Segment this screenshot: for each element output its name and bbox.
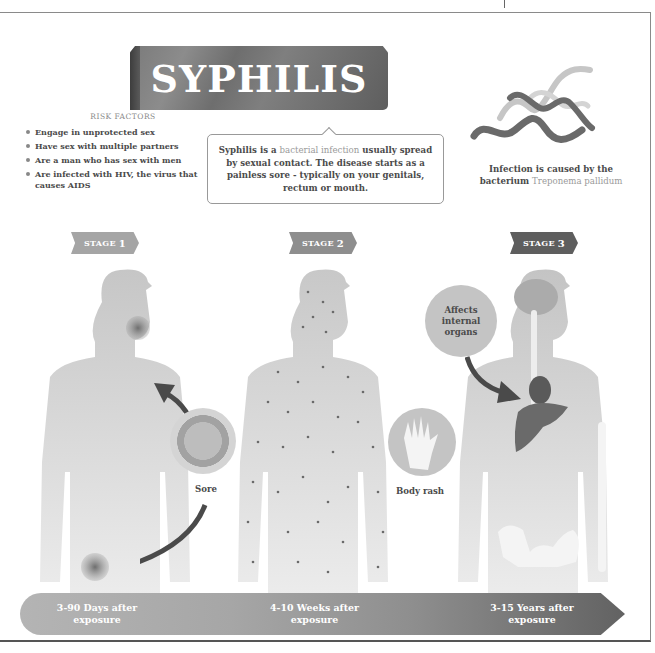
sore-label: Sore bbox=[186, 484, 226, 495]
mouth-lesion bbox=[126, 316, 150, 340]
arm-bone-icon bbox=[598, 422, 606, 572]
genital-lesion bbox=[81, 553, 109, 581]
title-banner: SYPHILIS bbox=[130, 46, 388, 110]
bullet-icon bbox=[26, 144, 30, 148]
top-tick-mark bbox=[504, 0, 505, 8]
stage-1-arrows bbox=[140, 375, 220, 585]
banner-fold bbox=[130, 46, 140, 110]
stage-3-tag: STAGE3 bbox=[510, 232, 578, 254]
hand-icon bbox=[388, 408, 456, 476]
risk-factors: RISK FACTORS Engage in unprotected sex H… bbox=[26, 112, 206, 194]
treponema-bacteria-icon bbox=[470, 58, 600, 148]
risk-factor-item: Engage in unprotected sex bbox=[26, 127, 206, 138]
bullet-icon bbox=[26, 172, 30, 176]
bullet-icon bbox=[26, 158, 30, 162]
definition-text: Syphilis is a bacterial infection usuall… bbox=[218, 144, 433, 194]
risk-factor-item: Are a man who has sex with men bbox=[26, 155, 206, 166]
risk-factor-item: Have sex with multiple partners bbox=[26, 141, 206, 152]
definition-box: Syphilis is a bacterial infection usuall… bbox=[207, 134, 444, 204]
timeline-stage-3: 3-15 Years after exposure bbox=[477, 602, 587, 626]
heart-icon bbox=[529, 376, 551, 404]
risk-factors-list: Engage in unprotected sex Have sex with … bbox=[26, 127, 206, 191]
risk-factors-heading: RISK FACTORS bbox=[40, 112, 206, 121]
bacterium-caption: Infection is caused by the bacterium Tre… bbox=[466, 163, 636, 187]
risk-factor-item: Are infected with HIV, the virus that ca… bbox=[26, 169, 206, 191]
highlight-treponema-pallidum: Treponema pallidum bbox=[532, 176, 622, 186]
progression-timeline: 3-90 Days after exposure 4-10 Weeks afte… bbox=[20, 593, 625, 635]
timeline-stage-2: 4-10 Weeks after exposure bbox=[260, 602, 370, 626]
organ-arrow-icon bbox=[465, 355, 525, 405]
brain-icon bbox=[514, 279, 558, 315]
arrow-icon bbox=[140, 505, 205, 565]
body-rash-magnifier bbox=[388, 408, 456, 476]
internal-organs-callout: Affects internal organs bbox=[425, 285, 497, 357]
sore-magnifier bbox=[170, 408, 236, 474]
page-title: SYPHILIS bbox=[151, 56, 368, 101]
stage-2-tag: STAGE2 bbox=[289, 232, 357, 254]
highlight-bacterial-infection: bacterial infection bbox=[280, 145, 360, 155]
bullet-icon bbox=[26, 130, 30, 134]
body-rash-label: Body rash bbox=[390, 486, 450, 497]
timeline-stage-1: 3-90 Days after exposure bbox=[42, 602, 152, 626]
stage-1-tag: STAGE1 bbox=[71, 232, 139, 254]
